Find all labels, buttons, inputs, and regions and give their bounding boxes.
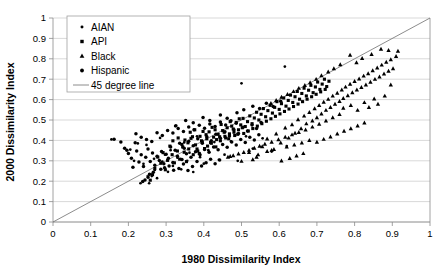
- data-point: [232, 128, 236, 132]
- legend-marker-small-dot-icon: [81, 26, 84, 29]
- data-point: [195, 147, 198, 150]
- data-point: [283, 135, 287, 139]
- data-point: [346, 93, 350, 97]
- data-point: [324, 119, 328, 123]
- data-point: [256, 152, 260, 156]
- data-point: [349, 126, 353, 130]
- y-tick-label: 0.4: [33, 135, 46, 146]
- data-point: [292, 143, 296, 147]
- data-point: [265, 149, 269, 153]
- data-point: [341, 106, 345, 110]
- data-point: [294, 154, 298, 158]
- data-point: [309, 84, 312, 87]
- data-point: [319, 73, 323, 77]
- data-point: [137, 160, 141, 164]
- data-point: [355, 88, 359, 92]
- data-point: [290, 122, 294, 126]
- y-axis-tick-labels: 00.10.20.30.40.50.60.70.80.91: [33, 12, 46, 227]
- data-point: [322, 100, 326, 104]
- data-point: [131, 166, 135, 170]
- data-point: [284, 105, 287, 108]
- data-point: [271, 112, 274, 115]
- data-point: [250, 123, 254, 127]
- legend[interactable]: AIANAPIBlackHispanic45 degree line: [67, 16, 190, 92]
- x-tick-label: 0.8: [348, 228, 361, 239]
- data-point: [288, 156, 292, 160]
- data-point: [183, 138, 186, 141]
- data-point: [169, 149, 172, 152]
- data-point: [180, 158, 184, 162]
- data-point: [303, 87, 306, 90]
- data-point: [328, 134, 332, 138]
- y-tick-label: 0.5: [33, 114, 46, 125]
- data-point: [301, 151, 305, 155]
- data-point: [251, 157, 255, 161]
- data-point: [216, 148, 220, 152]
- data-point: [223, 153, 226, 156]
- data-point: [253, 116, 256, 119]
- data-point: [255, 111, 258, 114]
- data-point: [172, 165, 175, 168]
- data-point: [289, 94, 292, 97]
- data-point: [234, 122, 238, 126]
- data-point: [369, 52, 373, 56]
- data-point: [303, 128, 307, 132]
- data-point: [176, 155, 180, 159]
- data-point: [384, 60, 388, 64]
- data-point: [276, 137, 280, 141]
- data-point: [248, 114, 251, 117]
- data-point: [218, 158, 222, 162]
- legend-label: 45 degree line: [91, 80, 155, 91]
- data-point: [257, 118, 260, 121]
- data-point: [278, 108, 281, 111]
- data-point: [342, 129, 346, 133]
- legend-label: API: [91, 36, 107, 47]
- data-point: [212, 145, 216, 149]
- data-point: [335, 132, 339, 136]
- data-point: [326, 70, 330, 74]
- data-point: [341, 96, 345, 100]
- data-point: [189, 131, 192, 134]
- data-point: [177, 167, 181, 171]
- data-point: [332, 66, 336, 70]
- legend-marker-dot-icon: [80, 69, 84, 73]
- data-point: [215, 138, 218, 141]
- data-point: [258, 107, 262, 111]
- y-tick-label: 0.8: [33, 53, 46, 64]
- legend-label: AIAN: [91, 22, 114, 33]
- x-tick-label: 0.7: [310, 228, 323, 239]
- data-point: [192, 153, 195, 156]
- x-tick-label: 0.6: [273, 228, 286, 239]
- x-tick-label: 0.3: [159, 228, 172, 239]
- data-point: [188, 151, 191, 154]
- data-point: [151, 151, 155, 155]
- data-point: [182, 130, 186, 134]
- data-point: [150, 140, 154, 144]
- legend-label: Hispanic: [91, 65, 129, 76]
- data-point: [191, 144, 195, 148]
- data-point: [219, 113, 223, 117]
- data-point: [208, 119, 212, 123]
- data-point: [325, 85, 328, 88]
- data-point: [127, 152, 131, 156]
- data-point: [167, 164, 171, 168]
- data-point: [159, 137, 162, 140]
- data-point: [338, 62, 342, 66]
- data-point: [148, 182, 151, 185]
- data-point: [328, 105, 332, 109]
- data-point: [355, 108, 359, 112]
- data-point: [173, 148, 177, 152]
- data-point: [135, 149, 139, 153]
- data-point: [112, 137, 116, 141]
- data-point: [204, 161, 208, 165]
- data-point: [362, 74, 366, 78]
- data-point: [167, 170, 170, 173]
- x-tick-label: 0.1: [84, 228, 97, 239]
- data-point: [343, 85, 347, 89]
- data-point: [316, 81, 319, 84]
- data-point: [221, 143, 225, 147]
- data-point: [205, 135, 209, 139]
- data-point: [240, 82, 243, 85]
- data-point: [228, 134, 232, 138]
- chart-canvas: 00.10.20.30.40.50.60.70.80.91 00.10.20.3…: [0, 0, 446, 269]
